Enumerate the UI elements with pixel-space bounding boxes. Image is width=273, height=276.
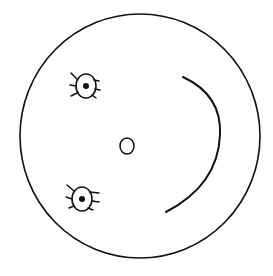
smile-icon <box>166 77 220 212</box>
eye-upper-icon <box>70 73 100 98</box>
nose-icon <box>120 138 134 154</box>
smiley-face-drawing <box>0 0 273 276</box>
head-outline <box>20 14 260 258</box>
eye-lower-icon <box>66 185 99 211</box>
